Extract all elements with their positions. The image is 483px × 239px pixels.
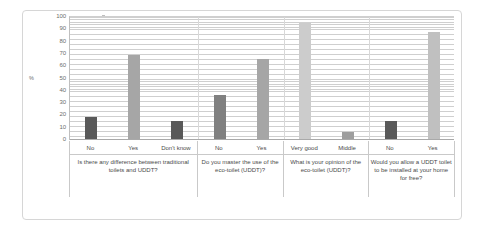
y-tick-label: 70 (36, 50, 66, 56)
bar (299, 23, 311, 139)
bar (385, 121, 397, 139)
category-label: No (368, 144, 411, 152)
category-label: Very good (283, 144, 326, 152)
y-tick-label: 0 (36, 136, 66, 142)
y-tick-label: 10 (36, 124, 66, 130)
question-label: What is your opinion of the eco-toilet (… (283, 155, 369, 197)
category-label: No (69, 144, 112, 152)
plot-area (69, 16, 454, 140)
band-edge-divider (454, 141, 455, 197)
question-label: Is there any difference between traditio… (69, 155, 197, 197)
bar (85, 117, 97, 139)
bar (428, 32, 440, 139)
y-axis: 1009080706050403020100 (36, 15, 66, 141)
group-separator (369, 17, 370, 140)
y-tick-label: 20 (36, 111, 66, 117)
question-label: Do you master the use of the eco-toilet … (197, 155, 283, 197)
bar (214, 95, 226, 139)
bar (128, 55, 140, 139)
group-band-divider (197, 141, 198, 197)
x-axis-baseline (70, 139, 454, 140)
category-label-band: NoYesDon't knowNoYesVery goodMiddleNoYes (69, 141, 454, 155)
category-label: Don't know (155, 144, 198, 152)
bar (342, 132, 354, 139)
bar-chart-figure: 1009080706050403020100 % NoYesDon't know… (0, 0, 483, 239)
y-tick-label: 90 (36, 25, 66, 31)
group-band-divider (368, 141, 369, 197)
category-label: Yes (411, 144, 454, 152)
category-label: Middle (326, 144, 369, 152)
bar (257, 59, 269, 139)
y-tick-label: 50 (36, 75, 66, 81)
question-label: Would you allow a UDDT toilet to be inst… (368, 155, 454, 197)
y-axis-title: % (29, 75, 34, 81)
y-tick-label: 40 (36, 87, 66, 93)
bar (171, 121, 183, 139)
y-tick-label: 30 (36, 99, 66, 105)
y-tick-label: 100 (36, 13, 66, 19)
group-separator (198, 17, 199, 140)
category-label: Yes (240, 144, 283, 152)
group-band-divider (283, 141, 284, 197)
category-label: No (197, 144, 240, 152)
group-separator (284, 17, 285, 140)
y-tick-label: 80 (36, 38, 66, 44)
category-label: Yes (112, 144, 155, 152)
y-tick-label: 60 (36, 62, 66, 68)
question-label-band: Is there any difference between traditio… (69, 155, 454, 197)
band-edge-divider (69, 141, 70, 197)
